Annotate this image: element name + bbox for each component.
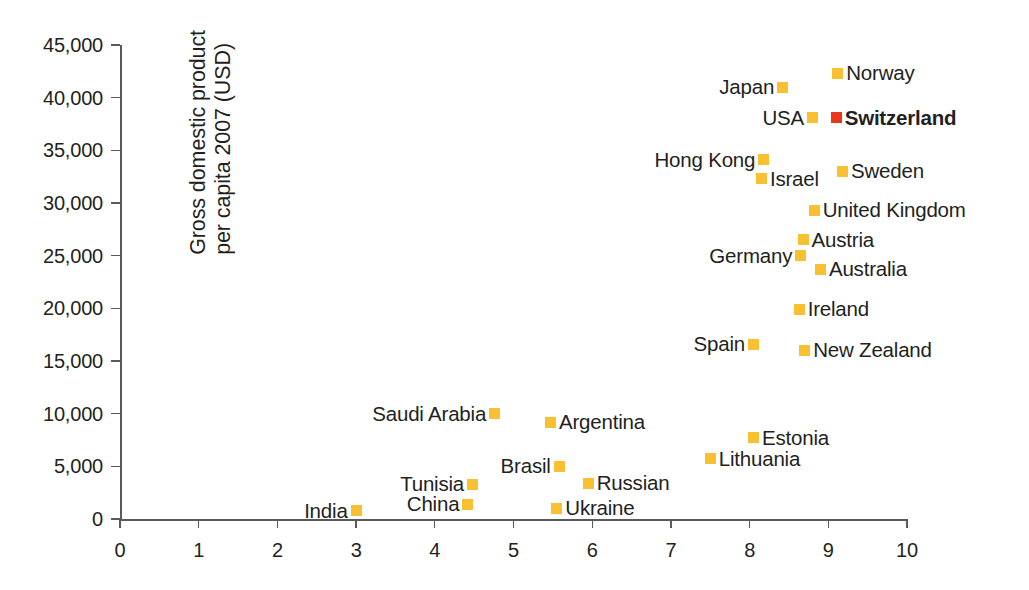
data-point-label: Lithuania [719, 449, 800, 470]
y-axis-tick-label: 5,000 [0, 455, 103, 478]
y-axis-tick [111, 360, 120, 361]
data-point[interactable]: Estonia [748, 432, 759, 443]
data-point-label: New Zealand [813, 340, 932, 361]
data-point-label: Australia [829, 259, 907, 280]
data-point-marker [798, 234, 809, 245]
data-point-marker [748, 339, 759, 350]
data-point[interactable]: India [351, 505, 362, 516]
data-point-marker [794, 304, 805, 315]
x-axis-tick [749, 519, 750, 528]
y-axis-tick-label: 15,000 [0, 350, 103, 373]
data-point[interactable]: Austria [798, 234, 809, 245]
data-point-marker [462, 499, 473, 510]
data-point-marker [795, 250, 806, 261]
data-point-marker [545, 417, 556, 428]
data-point[interactable]: Israel [756, 173, 767, 184]
data-point[interactable]: Ukraine [551, 503, 562, 514]
x-axis-tick [277, 519, 278, 528]
data-point[interactable]: China [462, 499, 473, 510]
data-point[interactable]: Ireland [794, 304, 805, 315]
y-axis-tick [111, 466, 120, 467]
y-axis-tick [111, 255, 120, 256]
data-point-label: Switzerland [845, 107, 957, 128]
data-point[interactable]: USA [807, 112, 818, 123]
y-axis-tick-label: 35,000 [0, 139, 103, 162]
data-point-label: Argentina [559, 412, 645, 433]
y-axis-tick [111, 518, 120, 519]
data-point-label: Estonia [762, 428, 829, 449]
y-axis-tick-label: 10,000 [0, 403, 103, 426]
data-point-label: United Kingdom [823, 200, 966, 221]
data-point-marker [815, 264, 826, 275]
data-point-label: Sweden [851, 161, 924, 182]
x-axis-tick [592, 519, 593, 528]
data-point-marker [351, 505, 362, 516]
data-point[interactable]: Hong Kong [758, 154, 769, 165]
data-point[interactable]: Australia [815, 264, 826, 275]
y-axis-tick [111, 97, 120, 98]
y-axis-tick [111, 413, 120, 414]
data-point-marker [489, 408, 500, 419]
x-axis-tick-label: 1 [159, 539, 239, 562]
x-axis-tick-label: 7 [631, 539, 711, 562]
data-point-label: Russian [597, 473, 670, 494]
data-point[interactable]: Japan [777, 82, 788, 93]
data-point-label: Norway [846, 63, 914, 84]
x-axis-tick-label: 10 [867, 539, 947, 562]
y-axis-tick-label: 20,000 [0, 297, 103, 320]
data-point[interactable]: Saudi Arabia [489, 408, 500, 419]
data-point[interactable]: New Zealand [799, 345, 810, 356]
data-point-label: Germany [709, 245, 792, 266]
data-point[interactable]: Spain [748, 339, 759, 350]
data-point-label: Brasil [501, 456, 551, 477]
y-axis-tick-label: 45,000 [0, 34, 103, 57]
x-axis-tick [119, 519, 120, 528]
y-axis-title: Gross domestic product per capita 2007 (… [114, 30, 194, 510]
x-axis-tick-label: 5 [474, 539, 554, 562]
data-point[interactable]: Brasil [554, 461, 565, 472]
y-axis-tick [111, 308, 120, 309]
x-axis-tick-label: 3 [316, 539, 396, 562]
data-point-label: Japan [719, 77, 774, 98]
data-point-label: Spain [694, 334, 745, 355]
y-axis-tick-label: 25,000 [0, 245, 103, 268]
x-axis-tick [670, 519, 671, 528]
data-point-marker [837, 166, 848, 177]
data-point-label: Israel [770, 169, 819, 190]
data-point[interactable]: Germany [795, 250, 806, 261]
data-point[interactable]: Russian [583, 478, 594, 489]
y-axis-tick [111, 202, 120, 203]
x-axis-tick [906, 519, 907, 528]
data-point-label: USA [762, 107, 804, 128]
x-axis-tick-label: 9 [788, 539, 868, 562]
data-point[interactable]: United Kingdom [809, 205, 820, 216]
y-axis-tick [111, 150, 120, 151]
data-point-marker [832, 68, 843, 79]
data-point[interactable]: Norway [832, 68, 843, 79]
data-point-marker [807, 112, 818, 123]
data-point-marker [551, 503, 562, 514]
y-axis-line [120, 45, 122, 519]
data-point-marker [554, 461, 565, 472]
x-axis-tick-label: 4 [395, 539, 475, 562]
x-axis-tick-label: 8 [710, 539, 790, 562]
data-point[interactable]: Lithuania [705, 453, 716, 464]
data-point-marker [467, 479, 478, 490]
data-point-marker [583, 478, 594, 489]
data-point[interactable]: Sweden [837, 166, 848, 177]
data-point-marker [799, 345, 810, 356]
data-point-label: Saudi Arabia [372, 403, 486, 424]
data-point-marker-highlight [831, 112, 842, 123]
data-point[interactable]: Argentina [545, 417, 556, 428]
x-axis-tick-label: 2 [237, 539, 317, 562]
scatter-chart: Gross domestic product per capita 2007 (… [0, 0, 1029, 590]
data-point-label: Austria [812, 230, 874, 251]
data-point-marker [756, 173, 767, 184]
data-point-label: Ireland [808, 299, 869, 320]
data-point[interactable]: Tunisia [467, 479, 478, 490]
x-axis-tick-label: 6 [552, 539, 632, 562]
data-point[interactable]: Switzerland [831, 112, 842, 123]
data-point-marker [758, 154, 769, 165]
data-point-label: Hong Kong [654, 150, 755, 171]
data-point-label: China [407, 494, 460, 515]
